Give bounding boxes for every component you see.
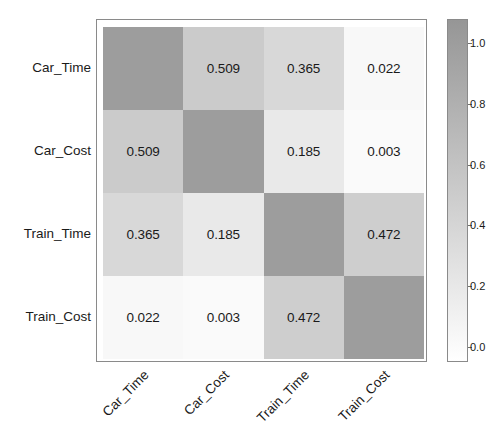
heatmap-cell-value: 0.509	[207, 62, 240, 76]
heatmap-cell-value: 0.022	[126, 311, 159, 325]
heatmap-cell: 0.003	[183, 276, 263, 359]
heatmap-cell-value: 0.365	[287, 62, 320, 76]
heatmap-cell: 0.472	[344, 193, 424, 276]
colorbar-tick-label: 0.4	[470, 220, 485, 231]
heatmap-cell	[183, 110, 263, 193]
heatmap-cell-value: 0.003	[207, 311, 240, 325]
heatmap-cell: 0.509	[103, 110, 183, 193]
colorbar	[447, 19, 468, 362]
heatmap-cell-value: 0.185	[287, 145, 320, 159]
colorbar-tick-label: 0.6	[470, 159, 485, 170]
heatmap-cell: 0.185	[183, 193, 263, 276]
heatmap-cell: 0.185	[264, 110, 344, 193]
x-tick-label-car_time: Car_Time	[101, 368, 152, 419]
heatmap-cell	[103, 27, 183, 110]
heatmap-cell	[344, 276, 424, 359]
heatmap-axes: 0.5090.3650.0220.5090.1850.0030.3650.185…	[96, 19, 427, 362]
heatmap-cell-value: 0.365	[126, 228, 159, 242]
heatmap-cell: 0.365	[103, 193, 183, 276]
x-tick-label-train_time: Train_Time	[255, 368, 312, 425]
heatmap-grid: 0.5090.3650.0220.5090.1850.0030.3650.185…	[103, 27, 424, 359]
heatmap-cell: 0.472	[264, 276, 344, 359]
heatmap-cell: 0.022	[344, 27, 424, 110]
colorbar-tick-label: 0.2	[470, 281, 485, 292]
x-tick-label-train_cost: Train_Cost	[337, 368, 393, 424]
colorbar-gradient	[448, 20, 467, 361]
x-tick-label-car_cost: Car_Cost	[182, 368, 232, 418]
y-tick-label-car_cost: Car_Cost	[34, 144, 91, 158]
heatmap-cell-value: 0.185	[207, 228, 240, 242]
y-tick-label-train_cost: Train_Cost	[25, 310, 91, 324]
heatmap-cell: 0.022	[103, 276, 183, 359]
heatmap-cell-value: 0.472	[287, 311, 320, 325]
heatmap-cell-value: 0.003	[367, 145, 400, 159]
heatmap-cell	[264, 193, 344, 276]
y-tick-label-car_time: Car_Time	[32, 61, 91, 75]
heatmap-cell-value: 0.472	[367, 228, 400, 242]
heatmap-cell-value: 0.022	[367, 62, 400, 76]
heatmap-cell-value: 0.509	[126, 145, 159, 159]
heatmap-cell: 0.003	[344, 110, 424, 193]
heatmap-cell: 0.509	[183, 27, 263, 110]
heatmap-cell: 0.365	[264, 27, 344, 110]
colorbar-tick-label: 0.8	[470, 98, 485, 109]
y-tick-label-train_time: Train_Time	[24, 227, 91, 241]
colorbar-tick-label: 1.0	[470, 38, 485, 49]
colorbar-tick-label: 0.0	[470, 341, 485, 352]
heatmap-figure: 0.5090.3650.0220.5090.1850.0030.3650.185…	[0, 0, 504, 443]
